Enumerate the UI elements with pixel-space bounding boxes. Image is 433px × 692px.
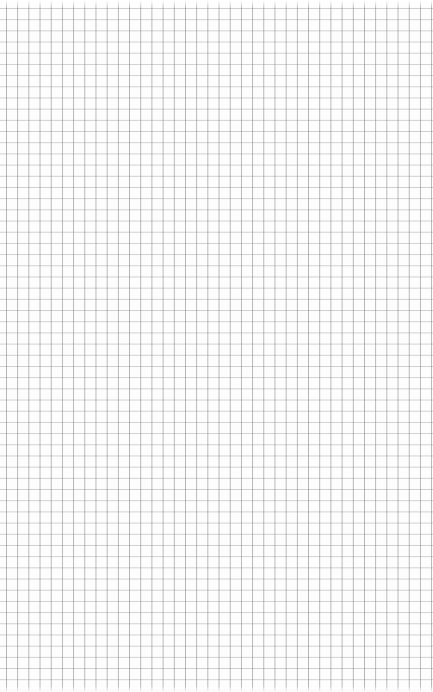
paper-top-edge (0, 0, 433, 8)
paper-bottom-edge (0, 686, 433, 692)
graph-paper-sheet (0, 0, 433, 692)
